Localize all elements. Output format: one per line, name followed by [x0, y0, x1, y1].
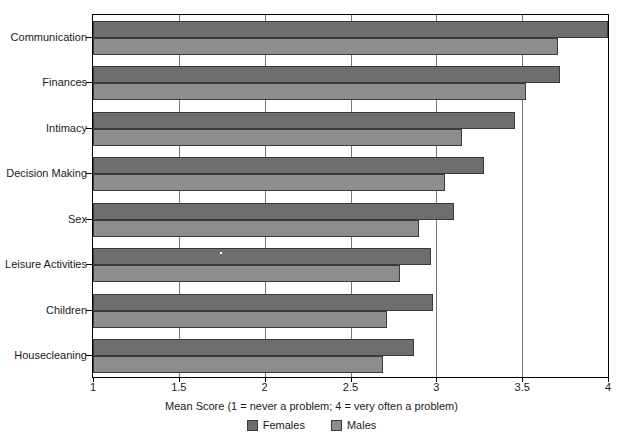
bar-group	[93, 203, 608, 237]
y-axis-label-finances: Finances	[42, 76, 87, 88]
bar-males-decision-making[interactable]	[93, 174, 445, 191]
y-axis-tick	[86, 310, 92, 311]
bar-females-decision-making[interactable]	[93, 157, 484, 174]
bar-group	[93, 248, 608, 282]
legend-item-males[interactable]: Males	[331, 419, 376, 431]
bar-group	[93, 112, 608, 146]
plot-area	[92, 14, 609, 378]
bar-males-communication[interactable]	[93, 38, 558, 55]
x-axis-tick-label: 4	[605, 381, 611, 394]
bar-chart: CommunicationFinancesIntimacyDecision Ma…	[0, 0, 623, 444]
y-axis-tick	[86, 355, 92, 356]
bar-group	[93, 339, 608, 373]
legend-swatch-females-icon	[247, 420, 258, 431]
x-axis-title: Mean Score (1 = never a problem; 4 = ver…	[0, 400, 623, 412]
bar-males-intimacy[interactable]	[93, 129, 462, 146]
plot-inner	[93, 15, 608, 377]
bar-males-sex[interactable]	[93, 220, 419, 237]
bar-males-leisure-activities[interactable]	[93, 265, 400, 282]
y-axis-label-leisure-activities: Leisure Activities	[5, 258, 87, 270]
legend-swatch-males-icon	[331, 420, 342, 431]
y-axis-label-housecleaning: Housecleaning	[14, 349, 87, 361]
y-axis-label-communication: Communication	[11, 31, 87, 43]
x-axis-tick-label: 3	[433, 381, 439, 394]
stray-speck	[220, 252, 222, 254]
bar-females-children[interactable]	[93, 294, 433, 311]
y-axis-label-children: Children	[46, 304, 87, 316]
x-axis-tick-label: 1.5	[171, 381, 186, 394]
y-axis-tick	[86, 264, 92, 265]
x-axis-tick-label: 2	[262, 381, 268, 394]
x-axis-tick-label: 1	[90, 381, 96, 394]
bar-males-finances[interactable]	[93, 83, 526, 100]
y-axis-label-sex: Sex	[68, 213, 87, 225]
x-axis-tick-label: 2.5	[343, 381, 358, 394]
y-axis-tick	[86, 128, 92, 129]
bar-males-children[interactable]	[93, 311, 387, 328]
bar-females-leisure-activities[interactable]	[93, 248, 431, 265]
y-axis-tick	[86, 37, 92, 38]
bar-females-communication[interactable]	[93, 21, 608, 38]
y-axis-label-intimacy: Intimacy	[46, 122, 87, 134]
y-axis-label-decision-making: Decision Making	[6, 167, 87, 179]
bar-group	[93, 157, 608, 191]
bar-females-intimacy[interactable]	[93, 112, 515, 129]
legend-label-males: Males	[347, 419, 376, 431]
legend-item-females[interactable]: Females	[247, 419, 305, 431]
bar-females-finances[interactable]	[93, 66, 560, 83]
bar-group	[93, 21, 608, 55]
chart-legend: Females Males	[0, 419, 623, 431]
y-axis-tick	[86, 82, 92, 83]
y-axis-tick	[86, 219, 92, 220]
bar-females-sex[interactable]	[93, 203, 454, 220]
bar-group	[93, 294, 608, 328]
bar-males-housecleaning[interactable]	[93, 356, 383, 373]
bar-females-housecleaning[interactable]	[93, 339, 414, 356]
bar-group	[93, 66, 608, 100]
y-axis-tick	[86, 173, 92, 174]
x-axis-tick-label: 3.5	[515, 381, 530, 394]
legend-label-females: Females	[263, 419, 305, 431]
